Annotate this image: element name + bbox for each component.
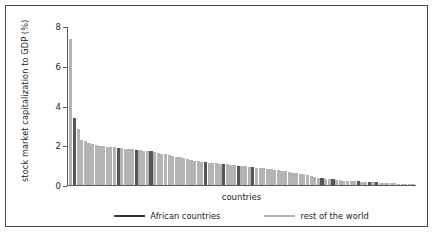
- y-axis-tick-mark: [63, 67, 67, 68]
- y-axis-tick-mark: [63, 186, 67, 187]
- legend-entry: rest of the world: [264, 211, 368, 221]
- legend-entry: African countries: [114, 211, 220, 221]
- chart-legend: African countriesrest of the world: [67, 211, 416, 221]
- legend-line-swatch: [264, 215, 295, 217]
- x-axis-line: [67, 185, 416, 186]
- x-axis-title: countries: [67, 192, 416, 202]
- bar: [411, 184, 414, 185]
- plot-area: 02468: [67, 27, 416, 186]
- y-axis-line: [67, 27, 68, 186]
- y-axis-title: stock market capitalization to GDP (%): [20, 32, 31, 182]
- y-axis-tick-label: 4: [56, 102, 61, 112]
- y-axis-tick-mark: [63, 27, 67, 28]
- y-axis-tick-label: 0: [56, 181, 61, 191]
- y-axis-tick-label: 8: [56, 22, 61, 32]
- legend-line-swatch: [114, 215, 145, 217]
- figure-frame: stock market capitalization to GDP (%) 0…: [5, 5, 428, 227]
- legend-label: African countries: [150, 211, 220, 221]
- y-axis-title-container: stock market capitalization to GDP (%): [6, 24, 36, 184]
- y-axis-tick-mark: [63, 146, 67, 147]
- y-axis-tick-label: 2: [56, 141, 61, 151]
- y-axis-tick-mark: [63, 107, 67, 108]
- legend-label: rest of the world: [300, 211, 368, 221]
- y-axis-tick-label: 6: [56, 62, 61, 72]
- bar-series: [69, 27, 415, 185]
